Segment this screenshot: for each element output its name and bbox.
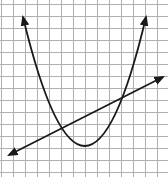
- graph-diagram: [0, 0, 168, 177]
